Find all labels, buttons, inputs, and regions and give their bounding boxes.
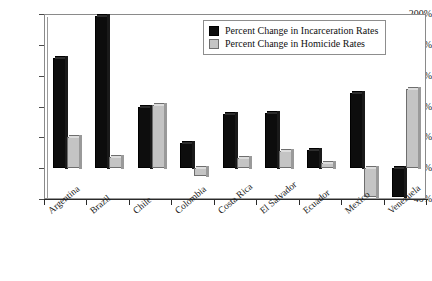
bar-argentina-homicide	[67, 137, 80, 168]
bar-side-face	[376, 166, 379, 198]
bar-side-face	[249, 156, 252, 169]
bar-ecuador-incarceration	[307, 150, 320, 169]
x-axis-tick	[426, 200, 427, 205]
bar-colombia-incarceration	[180, 143, 193, 168]
bar-side-face	[192, 141, 195, 169]
bar-venezuela-homicide	[406, 89, 419, 168]
bar-side-face	[164, 103, 167, 169]
legend-item-homicide: Percent Change in Homicide Rates	[209, 37, 378, 50]
bar-side-face	[107, 14, 110, 169]
bar-costa-rica-homicide	[237, 158, 250, 168]
bar-chile-incarceration	[138, 107, 151, 168]
bar-side-face	[206, 166, 209, 177]
bar-side-face	[79, 135, 82, 169]
legend-label-homicide: Percent Change in Homicide Rates	[225, 38, 365, 49]
bar-el-salvador-incarceration	[265, 113, 278, 169]
x-axis-tick	[299, 200, 300, 205]
bar-argentina-incarceration	[53, 58, 66, 168]
x-axis-tick	[341, 200, 342, 205]
x-axis-tick	[129, 200, 130, 205]
bar-chart: 200%160%120%80%40%0%-40% ArgentinaBrazil…	[0, 0, 432, 281]
bar-chile-homicide	[152, 105, 165, 168]
bar-brazil-homicide	[109, 157, 122, 169]
x-axis-tick	[214, 200, 215, 205]
x-axis-tick	[256, 200, 257, 205]
legend-label-incarceration: Percent Change in Incarceration Rates	[225, 25, 378, 36]
bar-side-face	[291, 149, 294, 169]
x-axis-tick	[44, 200, 45, 205]
bar-costa-rica-incarceration	[223, 114, 236, 168]
bar-colombia-homicide	[194, 168, 207, 176]
legend-swatch-gray-icon	[209, 39, 219, 49]
legend-swatch-black-icon	[209, 26, 219, 36]
bar-el-salvador-homicide	[279, 151, 292, 168]
x-axis-tick	[86, 200, 87, 205]
bar-ecuador-homicide	[321, 163, 334, 168]
bar-mexico-incarceration	[350, 93, 363, 169]
x-axis-tick	[384, 200, 385, 205]
chart-legend: Percent Change in Incarceration Rates Pe…	[203, 20, 386, 55]
x-axis-tick	[171, 200, 172, 205]
bar-side-face	[362, 91, 365, 170]
bar-brazil-incarceration	[95, 16, 108, 168]
legend-item-incarceration: Percent Change in Incarceration Rates	[209, 24, 378, 37]
bar-side-face	[333, 161, 336, 169]
bar-side-face	[418, 87, 421, 169]
bar-side-face	[121, 155, 124, 170]
